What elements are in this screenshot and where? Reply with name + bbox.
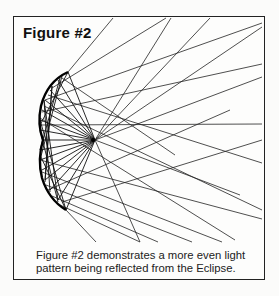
- caption-line-2: pattern being reflected from the Eclipse…: [36, 262, 266, 275]
- reflector-outline: [40, 72, 68, 210]
- lamp-focal-point: [91, 138, 95, 142]
- figure-caption: Figure #2 demonstrates a more even light…: [36, 249, 266, 275]
- reflected-rays: [40, 18, 262, 242]
- caption-line-1: Figure #2 demonstrates a more even light: [36, 249, 266, 262]
- figure-title: Figure #2: [23, 24, 92, 41]
